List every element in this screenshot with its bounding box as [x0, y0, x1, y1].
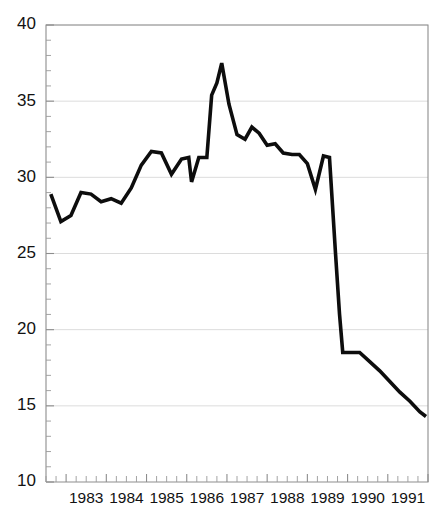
y-axis-tick-label: 30	[17, 167, 36, 186]
chart-container: 10152025303540 1983198419851986198719881…	[0, 0, 444, 523]
x-axis-tick-label: 1987	[230, 489, 264, 506]
y-axis-tick-label: 25	[17, 243, 36, 262]
data-line	[51, 63, 426, 416]
x-axis-tick-label: 1989	[310, 489, 344, 506]
y-axis-tick-label: 40	[17, 14, 36, 33]
y-axis-tick-label: 15	[17, 395, 36, 414]
data-series-layer	[51, 63, 426, 416]
x-axis-tick-label: 1988	[270, 489, 304, 506]
y-axis-tick-label: 20	[17, 319, 36, 338]
y-axis-tick-label: 10	[17, 471, 36, 490]
x-axis-labels: 198319841985198619871988198919901991	[69, 489, 425, 506]
line-chart: 10152025303540 1983198419851986198719881…	[0, 0, 444, 523]
x-axis-tick-label: 1985	[149, 489, 183, 506]
x-axis-tick-label: 1984	[109, 489, 144, 506]
y-axis-labels: 10152025303540	[17, 14, 36, 490]
y-axis-tick-label: 35	[17, 91, 36, 110]
x-axis-tick-label: 1983	[69, 489, 103, 506]
x-axis-tick-label: 1990	[350, 489, 385, 506]
grid-layer	[46, 25, 428, 406]
x-axis-tick-label: 1986	[190, 489, 224, 506]
x-axis-tick-label: 1991	[391, 489, 425, 506]
